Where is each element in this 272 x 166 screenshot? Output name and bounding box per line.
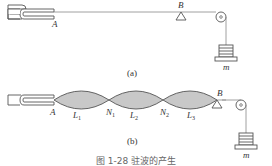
label-L3: L3 [186, 110, 195, 121]
label-B: B [178, 0, 184, 10]
pulley-icon [222, 100, 246, 110]
weight-stack-icon [215, 45, 237, 61]
panel-a: A B m (a) [8, 0, 237, 78]
weight-stack-icon [235, 133, 257, 149]
figure-caption: 图 1-28 驻波的产生 [0, 154, 272, 166]
pulley-icon [216, 12, 226, 22]
label-B: B [217, 88, 223, 98]
support-triangle-icon [176, 12, 186, 20]
panel-b-label: (b) [127, 136, 138, 146]
standing-wave-diagram: A B m (a) [0, 0, 272, 166]
label-L1: L1 [72, 110, 81, 121]
label-A: A [49, 107, 56, 117]
label-L2: L2 [129, 110, 138, 121]
label-m-a: m [223, 62, 230, 72]
loop-L2 [109, 91, 163, 109]
tuning-fork-icon [8, 5, 54, 19]
panel-a-label: (a) [127, 68, 137, 78]
standing-wave-loops [54, 91, 217, 109]
panel-b: B m A L1 N1 L2 N2 L3 (b) [8, 88, 257, 160]
label-N2: N2 [159, 107, 169, 118]
label-A: A [51, 19, 58, 29]
label-N1: N1 [105, 107, 115, 118]
loop-L3 [163, 91, 217, 109]
loop-L1 [54, 91, 109, 109]
tuning-fork-icon [8, 95, 54, 105]
